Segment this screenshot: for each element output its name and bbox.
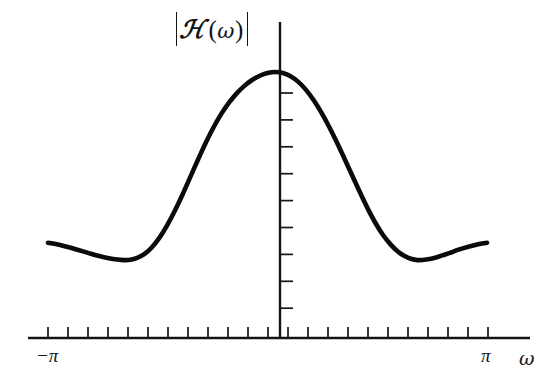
- absolute-value-bar-left: [176, 12, 177, 46]
- plot-svg: [0, 0, 558, 376]
- y-axis-label: ℋ (ω): [176, 12, 248, 46]
- response-curve: [48, 72, 487, 260]
- omega-argument: (ω): [209, 17, 244, 42]
- x-axis-name-label: ω: [519, 349, 535, 368]
- script-h-symbol: ℋ: [179, 17, 207, 42]
- y-axis-ticks: [280, 93, 293, 308]
- absolute-value-bar-right: [247, 12, 248, 46]
- y-axis-group: [280, 22, 293, 338]
- omega-icon: ω: [217, 19, 235, 43]
- x-tick-label-negative-pi: −π: [36, 346, 58, 365]
- x-axis-ticks: [48, 327, 488, 338]
- x-tick-label-positive-pi: π: [481, 346, 491, 365]
- figure-canvas: ℋ (ω) −π π ω: [0, 0, 558, 376]
